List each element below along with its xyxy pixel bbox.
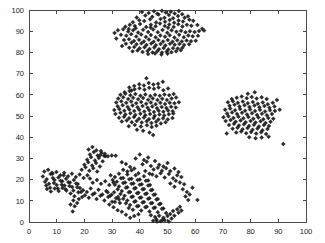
data-point (69, 203, 73, 207)
y-tick-label-40: 40 (16, 133, 24, 142)
data-point (80, 168, 84, 172)
data-point (151, 133, 155, 137)
data-point (165, 98, 169, 102)
x-tick-label-70: 70 (219, 227, 227, 236)
data-point (138, 94, 142, 98)
data-point (138, 112, 142, 116)
data-point (95, 178, 99, 182)
data-point (169, 105, 173, 109)
data-point (91, 181, 95, 185)
data-point (119, 99, 123, 103)
data-point (41, 174, 45, 178)
data-point (54, 170, 58, 174)
data-point (160, 9, 164, 13)
data-point (124, 101, 128, 105)
data-point (177, 33, 181, 37)
data-point (180, 25, 184, 29)
data-point (269, 120, 273, 124)
x-tick-label-10: 10 (53, 227, 61, 236)
data-point (175, 38, 179, 42)
data-point (186, 198, 190, 202)
data-point (150, 104, 154, 108)
data-point (85, 173, 89, 177)
data-point (270, 112, 274, 116)
data-point (113, 200, 117, 204)
data-point (110, 153, 114, 157)
data-point (146, 52, 150, 56)
data-point (141, 104, 145, 108)
x-tick-label-30: 30 (108, 227, 116, 236)
data-point (107, 203, 111, 207)
data-point (136, 212, 140, 216)
data-point (116, 208, 120, 212)
data-point (172, 92, 176, 96)
data-point (260, 95, 264, 99)
data-point (271, 117, 275, 121)
data-point (128, 23, 132, 27)
data-point (114, 37, 118, 41)
data-point (174, 179, 178, 183)
data-point (281, 142, 285, 146)
data-point (143, 14, 147, 18)
data-point (149, 164, 153, 168)
data-point (184, 195, 188, 199)
data-point (114, 154, 118, 158)
data-point (157, 85, 161, 89)
data-point (147, 37, 151, 41)
data-point (195, 23, 199, 27)
data-point (147, 86, 151, 90)
x-tick-label-0: 0 (27, 227, 31, 236)
data-point (141, 129, 145, 133)
data-point (167, 22, 171, 26)
data-point (273, 109, 277, 113)
data-point (118, 111, 122, 115)
data-point (53, 187, 57, 191)
data-point (85, 190, 89, 194)
data-point (244, 131, 248, 135)
data-point (144, 35, 148, 39)
data-point (118, 201, 122, 205)
data-point (73, 204, 77, 208)
data-point (160, 105, 164, 109)
data-point (87, 196, 91, 200)
data-point (246, 92, 250, 96)
data-point (157, 113, 161, 117)
data-point (124, 34, 128, 38)
data-point (178, 205, 182, 209)
data-point (139, 100, 143, 104)
data-point (172, 25, 176, 29)
data-point (117, 172, 121, 176)
data-point (174, 106, 178, 110)
data-point (161, 110, 165, 114)
data-point (156, 98, 160, 102)
data-point (101, 159, 105, 163)
data-point (172, 36, 176, 40)
data-point (260, 136, 264, 140)
data-point (243, 103, 247, 107)
data-point (240, 94, 244, 98)
data-point (149, 121, 153, 125)
data-point (265, 97, 269, 101)
data-point (166, 161, 170, 165)
data-point (138, 22, 142, 26)
data-point (161, 28, 165, 32)
data-point (190, 186, 194, 190)
data-point (260, 112, 264, 116)
data-point (181, 187, 185, 191)
data-point (174, 30, 178, 34)
data-point (178, 181, 182, 185)
data-point (166, 38, 170, 42)
data-point (139, 33, 143, 37)
data-point (127, 46, 131, 50)
data-point (113, 31, 117, 35)
data-point (82, 176, 86, 180)
data-point (149, 33, 153, 37)
data-point (154, 102, 158, 106)
data-point (147, 81, 151, 85)
data-point (124, 213, 128, 217)
data-point (188, 29, 192, 33)
data-point (117, 116, 121, 120)
y-tick-label-100: 100 (11, 6, 24, 15)
data-point (142, 174, 146, 178)
data-point (118, 93, 122, 97)
